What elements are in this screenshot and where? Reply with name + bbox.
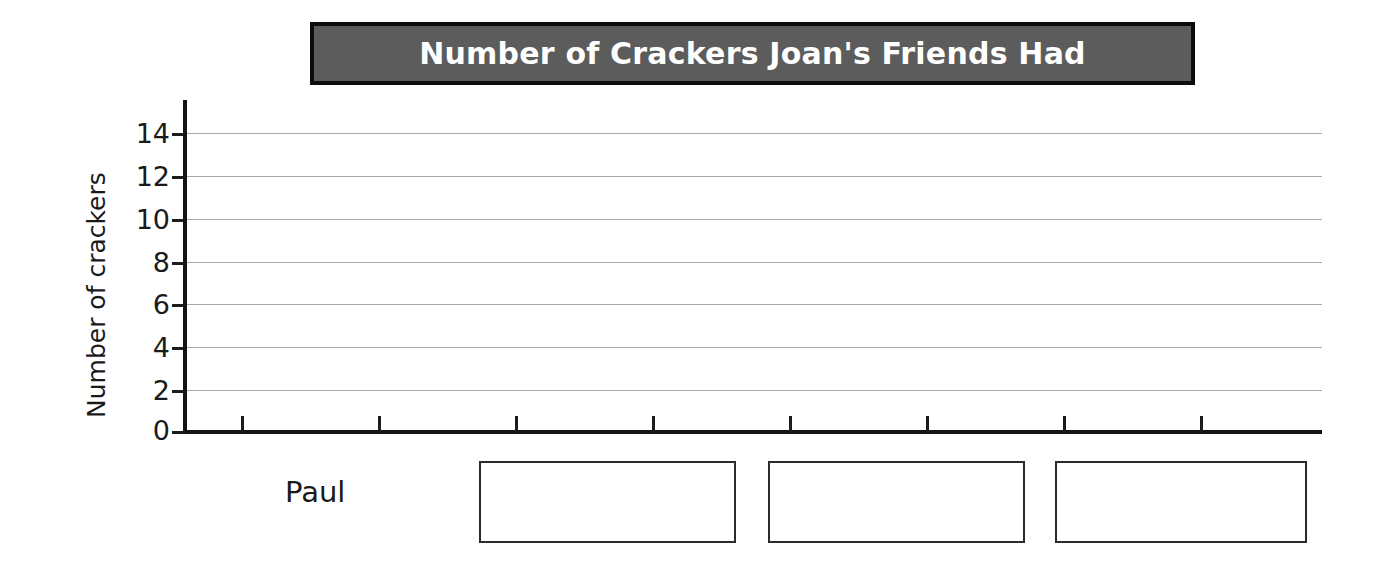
y-tick-label: 4 <box>100 334 170 361</box>
gridline <box>187 347 1322 348</box>
x-tick-mark <box>515 416 518 431</box>
y-tick-label: 12 <box>100 163 170 190</box>
y-tick-label: 0 <box>100 417 170 444</box>
x-tick-mark <box>241 416 244 431</box>
gridline <box>187 304 1322 305</box>
x-tick-mark <box>1200 416 1203 431</box>
answer-box[interactable] <box>479 461 736 543</box>
x-axis-category-label-paul: Paul <box>285 478 345 507</box>
y-tick-label: 14 <box>100 120 170 147</box>
x-tick-mark <box>789 416 792 431</box>
x-tick-mark <box>926 416 929 431</box>
x-tick-mark <box>1063 416 1066 431</box>
x-axis-line <box>183 430 1322 434</box>
gridline <box>187 262 1322 263</box>
gridline <box>187 176 1322 177</box>
gridline <box>187 219 1322 220</box>
bar-chart: Number of crackers 14 12 10 8 6 4 2 0 <box>0 0 1379 573</box>
answer-box[interactable] <box>1055 461 1307 543</box>
y-tick-label: 8 <box>100 249 170 276</box>
x-tick-mark <box>652 416 655 431</box>
y-tick-label: 10 <box>100 206 170 233</box>
y-tick-label: 6 <box>100 291 170 318</box>
gridline <box>187 133 1322 134</box>
gridline <box>187 390 1322 391</box>
y-axis-line <box>183 100 187 434</box>
y-axis-tick-labels: 14 12 10 8 6 4 2 0 <box>100 0 170 573</box>
x-tick-mark <box>378 416 381 431</box>
worksheet-page: Number of Crackers Joan's Friends Had Nu… <box>0 0 1379 573</box>
answer-box[interactable] <box>768 461 1025 543</box>
y-tick-label: 2 <box>100 377 170 404</box>
